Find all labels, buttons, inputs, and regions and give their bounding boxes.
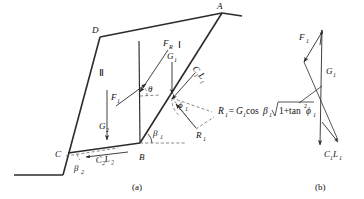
- label-force-FR-base: F: [162, 38, 169, 48]
- caption-panel-b: (b): [315, 182, 326, 192]
- equation-radicand-phi: ϕ: [306, 106, 311, 116]
- label-angle-phi1-base: ϕ: [178, 100, 183, 110]
- label-reaction-R1: R 1: [195, 130, 206, 142]
- interslice-boundary-DB: [139, 41, 140, 143]
- vector-C1L1: [322, 122, 338, 142]
- label-force-F1-sub: 1: [117, 98, 120, 104]
- label-weight-G2-base: G: [99, 121, 106, 131]
- label-vector-C1L1-L-sub: 1: [339, 155, 342, 161]
- vertex-label-C: C: [55, 149, 62, 159]
- label-vector-F1-base: F: [298, 32, 305, 42]
- block-label-one: Ⅰ: [178, 40, 181, 50]
- beta1-arc: [148, 134, 152, 143]
- equation-beta-sub: 1: [269, 112, 272, 118]
- label-vector-G1: G 1: [326, 66, 336, 78]
- equation-R-symbol: R: [217, 106, 224, 116]
- label-force-F1-base: F: [110, 92, 117, 102]
- label-vector-C1L1-L: L: [332, 149, 338, 159]
- theta-reference-line: [140, 95, 160, 96]
- label-vector-G1-base: G: [326, 66, 333, 76]
- label-C2L2-L-sub: 2: [111, 159, 115, 165]
- equation-beta: β: [262, 106, 268, 116]
- label-vector-F1-sub: 1: [306, 38, 309, 44]
- equation-radicand-phi-sub: 1: [313, 112, 316, 118]
- slope-stability-figure: A D B C Ⅰ Ⅱ F R F 1 G 1 G 2 C 1 L 1: [0, 0, 364, 199]
- equation-cos: cos: [246, 106, 259, 116]
- equation-equals: =: [228, 106, 234, 116]
- slip-surface-BC: [68, 143, 140, 153]
- caption-panel-a: (a): [132, 182, 142, 192]
- label-weight-G1-sub: 1: [174, 57, 177, 63]
- equation-R1: R 1 = G 1 cos β 1 1+tan 2 ϕ 1: [217, 102, 316, 118]
- ground-line-right: [222, 13, 242, 16]
- panel-b-force-polygon: [299, 30, 338, 145]
- label-reaction-R1-sub: 1: [203, 136, 206, 142]
- label-force-FR: F R: [162, 38, 173, 50]
- beta2-arc: [77, 154, 80, 160]
- label-angle-beta1-base: β: [152, 128, 158, 138]
- label-C2L2-L: L: [103, 154, 110, 165]
- label-force-FR-sub: R: [168, 44, 173, 50]
- vertex-label-B: B: [139, 152, 145, 162]
- crest-line-DA: [100, 13, 222, 37]
- label-reaction-R1-base: R: [195, 130, 202, 140]
- equation-radicand-prefix: 1+tan: [279, 106, 301, 116]
- label-cohesion-C2L2: C 2 L 2: [95, 153, 114, 167]
- label-angle-theta: θ: [148, 84, 153, 94]
- label-vector-F1: F 1: [298, 32, 309, 44]
- vector-F1: [304, 32, 322, 62]
- label-weight-G2-sub: 2: [106, 127, 109, 133]
- slip-surface-AB: [140, 13, 222, 143]
- label-vector-G1-sub: 1: [333, 72, 336, 78]
- R1-bound-line-b: [196, 117, 214, 129]
- vertex-label-A: A: [216, 1, 223, 11]
- label-angle-beta2: β 2: [73, 163, 84, 175]
- label-weight-G2: G 2: [99, 121, 109, 133]
- label-force-F1: F 1: [110, 92, 120, 104]
- equation-G-symbol: G: [236, 106, 243, 116]
- label-vector-C1L1: C 1 L 1: [324, 149, 342, 161]
- label-weight-G1: G 1: [167, 51, 177, 63]
- force-F1-vector: [116, 84, 146, 106]
- theta-arc: [144, 87, 147, 96]
- panel-a-geometry: [14, 13, 242, 175]
- label-angle-beta1: β 1: [152, 128, 163, 140]
- label-cohesion-C1L1: C 1 L 1: [189, 64, 210, 85]
- label-angle-beta1-sub: 1: [160, 134, 163, 140]
- vertex-label-D: D: [91, 25, 99, 35]
- label-angle-beta2-base: β: [73, 163, 79, 173]
- label-weight-G1-base: G: [167, 51, 174, 61]
- label-angle-phi1-sub: 1: [185, 106, 188, 112]
- label-angle-beta2-sub: 2: [81, 169, 84, 175]
- block-label-two: Ⅱ: [99, 68, 104, 78]
